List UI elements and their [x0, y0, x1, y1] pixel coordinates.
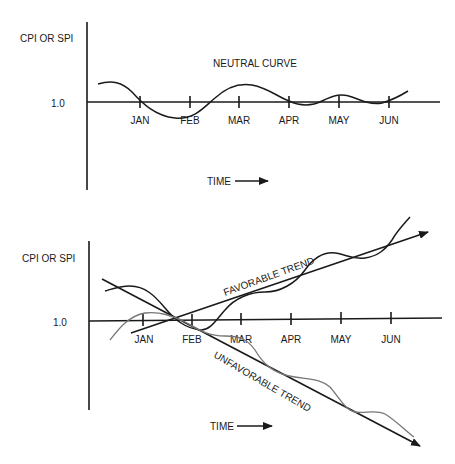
- month-label: JAN: [131, 115, 150, 126]
- y-axis-label: CPI OR SPI: [22, 253, 75, 264]
- month-label: APR: [279, 115, 300, 126]
- month-label: JAN: [135, 334, 154, 345]
- reference-label: 1.0: [53, 317, 67, 328]
- reference-label: 1.0: [51, 98, 65, 109]
- month-label: MAY: [329, 115, 350, 126]
- month-label: JUN: [379, 115, 398, 126]
- trend-diagram: CPI OR SPI 1.0 NEUTRAL CURVE JAN FEB MAR…: [0, 0, 455, 464]
- neutral-chart: CPI OR SPI 1.0 NEUTRAL CURVE JAN FEB MAR…: [20, 22, 440, 190]
- month-label: JUN: [381, 334, 400, 345]
- month-label: FEB: [182, 334, 202, 345]
- trend-chart: CPI OR SPI 1.0 JAN FEB MAR APR MAY JUN F…: [22, 217, 442, 446]
- month-label: MAY: [331, 334, 352, 345]
- time-label: TIME: [207, 176, 231, 187]
- month-label: MAR: [228, 115, 250, 126]
- reference-line: [89, 318, 442, 321]
- y-axis-label: CPI OR SPI: [20, 33, 73, 44]
- neutral-curve: [98, 82, 408, 118]
- chart-title: NEUTRAL CURVE: [213, 58, 297, 69]
- time-label: TIME: [210, 421, 234, 432]
- month-label: APR: [281, 334, 302, 345]
- unfavorable-trend-line: [102, 279, 420, 446]
